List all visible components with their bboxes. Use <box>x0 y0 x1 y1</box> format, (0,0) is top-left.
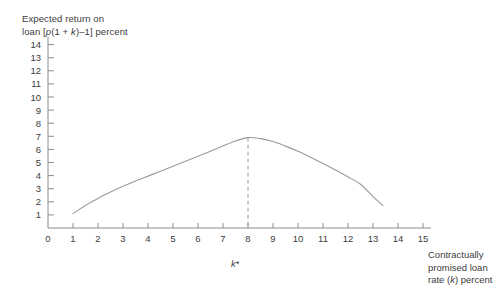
svg-text:5: 5 <box>36 157 41 168</box>
x-axis-label-line2: promised loan <box>428 262 488 273</box>
svg-text:8: 8 <box>245 233 250 244</box>
x-axis-label-line3-pre: rate ( <box>428 274 450 285</box>
axis-lines <box>48 37 431 228</box>
svg-text:10: 10 <box>30 92 41 103</box>
svg-text:11: 11 <box>318 233 328 244</box>
svg-text:2: 2 <box>36 196 41 207</box>
k-star-annotation-label: k* <box>231 258 239 269</box>
svg-text:2: 2 <box>95 233 100 244</box>
y-tick-labels: 1234567891011121314 <box>30 39 41 220</box>
svg-text:10: 10 <box>293 233 304 244</box>
svg-text:14: 14 <box>30 39 41 50</box>
svg-text:4: 4 <box>36 170 41 181</box>
y-axis-label-line1: Expected return on <box>22 13 104 24</box>
x-axis-label-line1: Contractually <box>428 249 483 260</box>
svg-text:14: 14 <box>393 233 404 244</box>
x-axis-label: Contractuallypromised loanrate (k) perce… <box>428 249 496 287</box>
svg-text:9: 9 <box>270 233 275 244</box>
svg-text:6: 6 <box>195 233 200 244</box>
y-axis-ticks <box>48 45 54 215</box>
svg-text:11: 11 <box>31 78 41 89</box>
svg-text:13: 13 <box>30 52 41 63</box>
svg-text:6: 6 <box>36 144 41 155</box>
svg-text:13: 13 <box>368 233 379 244</box>
svg-text:1: 1 <box>36 209 41 220</box>
y-axis-label-mid: (1 + <box>51 26 71 37</box>
svg-text:4: 4 <box>145 233 150 244</box>
svg-text:0: 0 <box>45 233 50 244</box>
x-tick-labels: 0123456789101112131415 <box>45 233 428 244</box>
y-axis-label-line2-pre: loan [ <box>22 26 46 37</box>
data-curve <box>73 138 383 214</box>
plot-area: 0123456789101112131415 12345678910111213… <box>0 0 496 293</box>
svg-text:3: 3 <box>120 233 125 244</box>
chart-figure: Expected return onloan [p(1 + k)–1] perc… <box>0 0 496 293</box>
svg-text:5: 5 <box>170 233 175 244</box>
svg-text:7: 7 <box>36 131 41 142</box>
k-star-asterisk: * <box>236 258 240 269</box>
x-axis-label-line3-post: ) percent <box>455 274 493 285</box>
y-axis-label-post: )–1] percent <box>76 26 128 37</box>
svg-text:9: 9 <box>36 105 41 116</box>
svg-text:8: 8 <box>36 118 41 129</box>
svg-text:12: 12 <box>30 65 41 76</box>
svg-text:15: 15 <box>418 233 429 244</box>
svg-text:7: 7 <box>220 233 225 244</box>
svg-text:1: 1 <box>70 233 75 244</box>
svg-text:3: 3 <box>36 183 41 194</box>
svg-text:12: 12 <box>343 233 354 244</box>
y-axis-label: Expected return onloan [p(1 + k)–1] perc… <box>22 12 128 38</box>
